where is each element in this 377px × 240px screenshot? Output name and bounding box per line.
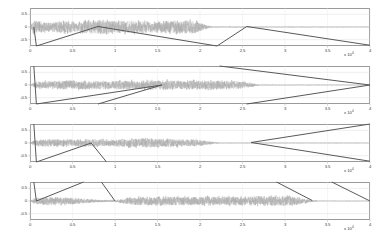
subplot-2: 0.50-0.5 00.511.522.533.54 x 104 xyxy=(0,66,377,118)
exponent-power: 4 xyxy=(352,225,354,229)
subplot-2-xtick-5: 2.5 xyxy=(240,107,246,111)
subplot-1-ytick-0: 0.5 xyxy=(2,12,27,16)
subplot-2-ytick-1: 0 xyxy=(2,83,27,87)
subplot-3-ytick-1: 0 xyxy=(2,141,27,145)
subplot-4-xtick-3: 1.5 xyxy=(155,223,161,227)
subplot-1-ytick-2: -0.5 xyxy=(2,38,27,42)
subplot-3-xtick-8: 4 xyxy=(369,165,371,169)
subplot-1-xtick-1: 0.5 xyxy=(70,49,76,53)
subplot-3-xtick-0: 0 xyxy=(29,165,31,169)
subplot-3-xtick-1: 0.5 xyxy=(70,165,76,169)
subplot-3-xtick-4: 2 xyxy=(199,165,201,169)
subplot-4-xtick-0: 0 xyxy=(29,223,31,227)
subplot-3-xtick-3: 1.5 xyxy=(155,165,161,169)
subplot-4-exponent-label: x 104 xyxy=(344,226,354,232)
exponent-power: 4 xyxy=(352,51,354,55)
subplot-2-ytick-0: 0.5 xyxy=(2,70,27,74)
subplot-2-xtick-2: 1 xyxy=(114,107,116,111)
subplot-1-xtick-0: 0 xyxy=(29,49,31,53)
subplot-1-xtick-6: 3 xyxy=(284,49,286,53)
subplot-4-ytick-0: 0.5 xyxy=(2,186,27,190)
subplot-2-exponent-label: x 104 xyxy=(344,110,354,116)
subplot-2-xtick-8: 4 xyxy=(369,107,371,111)
subplot-4-xtick-6: 3 xyxy=(284,223,286,227)
subplot-2-xtick-6: 3 xyxy=(284,107,286,111)
exponent-base: x 10 xyxy=(344,226,352,231)
subplot-4-xtick-4: 2 xyxy=(199,223,201,227)
subplot-2-xtick-7: 3.5 xyxy=(325,107,331,111)
subplot-2-xtick-0: 0 xyxy=(29,107,31,111)
exponent-base: x 10 xyxy=(344,52,352,57)
subplot-4-ytick-1: 0 xyxy=(2,199,27,203)
subplot-4-xtick-1: 0.5 xyxy=(70,223,76,227)
subplot-1-ytick-1: 0 xyxy=(2,25,27,29)
subplot-4-xtick-7: 3.5 xyxy=(325,223,331,227)
subplot-3: 0.50-0.5 00.511.522.533.54 x 104 xyxy=(0,124,377,176)
subplot-4-ytick-2: -0.5 xyxy=(2,212,27,216)
subplot-1-plot xyxy=(0,8,377,60)
exponent-power: 4 xyxy=(352,109,354,113)
subplot-4-xtick-2: 1 xyxy=(114,223,116,227)
subplot-3-xtick-7: 3.5 xyxy=(325,165,331,169)
subplot-2-xtick-1: 0.5 xyxy=(70,107,76,111)
exponent-base: x 10 xyxy=(344,168,352,173)
subplot-2-ytick-2: -0.5 xyxy=(2,96,27,100)
figure-canvas: 0.50-0.5 00.511.522.533.54 x 104 0.50-0.… xyxy=(0,0,377,240)
subplot-3-ytick-0: 0.5 xyxy=(2,128,27,132)
subplot-2-xtick-4: 2 xyxy=(199,107,201,111)
subplot-1: 0.50-0.5 00.511.522.533.54 x 104 xyxy=(0,8,377,60)
subplot-4-xtick-8: 4 xyxy=(369,223,371,227)
subplot-4-xtick-5: 2.5 xyxy=(240,223,246,227)
subplot-4: 0.50-0.5 00.511.522.533.54 x 104 xyxy=(0,182,377,234)
subplot-3-plot xyxy=(0,124,377,176)
subplot-1-xtick-8: 4 xyxy=(369,49,371,53)
exponent-power: 4 xyxy=(352,167,354,171)
subplot-3-exponent-label: x 104 xyxy=(344,168,354,174)
exponent-base: x 10 xyxy=(344,110,352,115)
subplot-3-xtick-5: 2.5 xyxy=(240,165,246,169)
subplot-2-xtick-3: 1.5 xyxy=(155,107,161,111)
subplot-2-plot xyxy=(0,66,377,118)
subplot-1-xtick-7: 3.5 xyxy=(325,49,331,53)
subplot-1-xtick-5: 2.5 xyxy=(240,49,246,53)
subplot-3-xtick-2: 1 xyxy=(114,165,116,169)
subplot-4-plot xyxy=(0,182,377,234)
subplot-1-exponent-label: x 104 xyxy=(344,52,354,58)
subplot-3-xtick-6: 3 xyxy=(284,165,286,169)
subplot-1-xtick-4: 2 xyxy=(199,49,201,53)
subplot-3-ytick-2: -0.5 xyxy=(2,154,27,158)
subplot-1-xtick-2: 1 xyxy=(114,49,116,53)
subplot-1-xtick-3: 1.5 xyxy=(155,49,161,53)
